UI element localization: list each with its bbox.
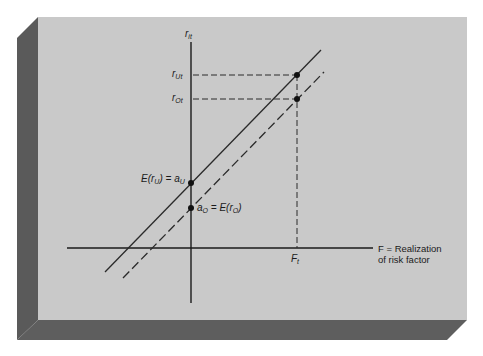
x-axis-label-line2: of risk factor — [378, 254, 430, 265]
box-bottom-face — [17, 320, 467, 340]
point-rOt — [294, 96, 300, 102]
point-aO — [188, 205, 194, 211]
factor-model-diagram: rit rUt rOt Ft E(rU) = aU aO = E(rO) F =… — [0, 0, 483, 356]
box-front-face — [38, 17, 467, 320]
box-left-face — [17, 17, 38, 340]
point-rUt — [294, 72, 300, 78]
annotation-upper-intercept: E(rU) = aU — [141, 173, 186, 185]
point-aU — [188, 180, 194, 186]
x-axis-label-line1: F = Realization — [378, 243, 442, 254]
